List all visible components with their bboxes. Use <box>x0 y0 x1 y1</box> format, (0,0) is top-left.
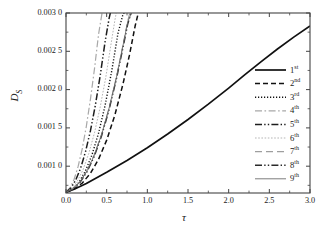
axis-frame <box>66 13 310 193</box>
legend-label-ordinal: th <box>294 159 299 165</box>
curve-2nd <box>66 9 139 192</box>
legend-label-ordinal: th <box>294 172 299 178</box>
x-tick-label: 2.0 <box>216 196 242 205</box>
y-tick-label: 0.001 0 <box>18 161 62 170</box>
legend-label-ordinal: th <box>294 145 299 151</box>
y-tick-label: 0.003 0 <box>18 8 62 17</box>
legend-item-4th: 4th <box>290 104 299 115</box>
legend-item-3rd: 3rd <box>290 91 299 102</box>
axis-ticks <box>66 13 310 193</box>
legend-label-ordinal: th <box>294 104 299 110</box>
legend-item-7th: 7th <box>290 145 299 156</box>
x-tick-label: 3.0 <box>297 196 323 205</box>
y-tick-label: 0.001 5 <box>18 122 62 131</box>
curve-4th <box>66 7 104 192</box>
curve-9th <box>66 7 134 192</box>
chart-figure: DS τ 0.001 00.001 50.002 00.002 50.003 0… <box>0 0 323 232</box>
legend-label-ordinal: st <box>294 64 298 70</box>
y-tick-label: 0.002 5 <box>18 46 62 55</box>
x-axis-title: τ <box>176 211 192 223</box>
data-curves <box>66 7 310 192</box>
plot-frame <box>66 13 310 193</box>
x-tick-label: 1.0 <box>134 196 160 205</box>
legend-item-5th: 5th <box>290 118 299 129</box>
x-tick-label: 2.5 <box>256 196 282 205</box>
legend-label-ordinal: nd <box>294 77 300 83</box>
legend-item-9th: 9th <box>290 172 299 183</box>
curve-8th <box>66 8 133 193</box>
curve-3rd <box>66 8 127 192</box>
y-tick-label: 0.002 0 <box>18 84 62 93</box>
x-tick-label: 0.5 <box>94 196 120 205</box>
curve-1st <box>66 26 310 192</box>
x-tick-label: 1.5 <box>175 196 201 205</box>
curve-6th <box>66 8 117 193</box>
legend-label-ordinal: th <box>294 118 299 124</box>
legend-sample-lines <box>255 70 286 179</box>
legend-item-2nd: 2nd <box>290 77 300 88</box>
legend-label-ordinal: th <box>294 132 299 138</box>
legend-item-1st: 1st <box>290 64 298 75</box>
legend-label-ordinal: rd <box>294 91 299 97</box>
legend-item-6th: 6th <box>290 132 299 143</box>
legend-item-8th: 8th <box>290 159 299 170</box>
x-tick-label: 0.0 <box>53 196 79 205</box>
